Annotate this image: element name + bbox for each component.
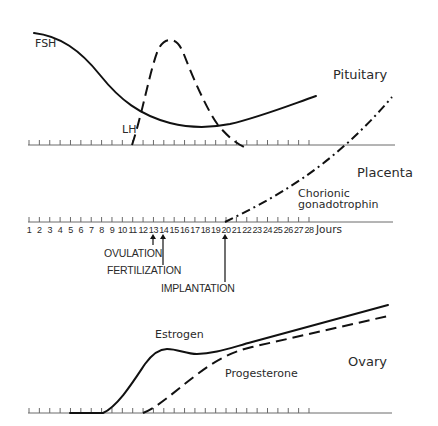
pituitary-label: Pituitary bbox=[333, 67, 388, 82]
day-number: 9 bbox=[110, 225, 115, 235]
ovary-panel: Estrogen Progesterone Ovary bbox=[28, 305, 392, 413]
progesterone-label: Progesterone bbox=[225, 367, 298, 380]
pituitary-axis-ticks bbox=[29, 140, 309, 145]
day-number: 7 bbox=[89, 225, 94, 235]
day-number: 10 bbox=[118, 225, 128, 235]
day-number: 2 bbox=[37, 225, 42, 235]
day-number: 23 bbox=[253, 225, 263, 235]
fsh-label: FSH bbox=[35, 37, 56, 50]
day-number: 26 bbox=[284, 225, 294, 235]
day-number: 5 bbox=[68, 225, 73, 235]
ovulation-label: OVULATION bbox=[104, 247, 162, 259]
ovulation-marker: OVULATION bbox=[104, 234, 162, 259]
day-number: 12 bbox=[138, 225, 148, 235]
day-number: 19 bbox=[211, 225, 221, 235]
estrogen-label: Estrogen bbox=[155, 328, 204, 341]
day-number: 28 bbox=[304, 225, 314, 235]
cycle-day-axis-ticks bbox=[29, 217, 309, 222]
event-markers: OVULATION FERTILIZATION IMPLANTATION bbox=[104, 234, 235, 294]
placenta-panel: 1234567891011121314151617181920212223242… bbox=[27, 97, 413, 235]
hcg-label-line2: gonadotrophin bbox=[298, 198, 378, 211]
day-number: 3 bbox=[47, 225, 52, 235]
axis-unit-label: Jours bbox=[315, 223, 342, 235]
ovary-label: Ovary bbox=[348, 354, 387, 369]
day-number: 15 bbox=[170, 225, 180, 235]
lh-curve bbox=[132, 40, 244, 147]
day-number: 25 bbox=[273, 225, 283, 235]
hormone-cycle-diagram: FSH LH Pituitary 12345678910111213141516… bbox=[0, 0, 438, 426]
placenta-label: Placenta bbox=[357, 165, 413, 180]
day-number: 1 bbox=[27, 225, 32, 235]
day-number: 22 bbox=[242, 225, 252, 235]
lh-label: LH bbox=[122, 123, 136, 136]
day-number: 20 bbox=[221, 225, 231, 235]
implantation-label: IMPLANTATION bbox=[161, 282, 235, 294]
estrogen-curve bbox=[70, 305, 388, 413]
cycle-day-numbers: 1234567891011121314151617181920212223242… bbox=[27, 225, 314, 235]
day-number: 27 bbox=[294, 225, 304, 235]
day-number: 13 bbox=[149, 225, 159, 235]
day-number: 14 bbox=[159, 225, 169, 235]
day-number: 17 bbox=[190, 225, 200, 235]
fertilization-label: FERTILIZATION bbox=[107, 264, 181, 276]
day-number: 16 bbox=[180, 225, 190, 235]
fsh-curve bbox=[34, 33, 316, 127]
day-number: 21 bbox=[232, 225, 242, 235]
pituitary-panel: FSH LH Pituitary bbox=[28, 33, 395, 147]
day-number: 6 bbox=[79, 225, 84, 235]
day-number: 8 bbox=[99, 225, 104, 235]
day-number: 4 bbox=[58, 225, 63, 235]
day-number: 11 bbox=[128, 225, 137, 235]
day-number: 18 bbox=[201, 225, 211, 235]
day-number: 24 bbox=[263, 225, 273, 235]
